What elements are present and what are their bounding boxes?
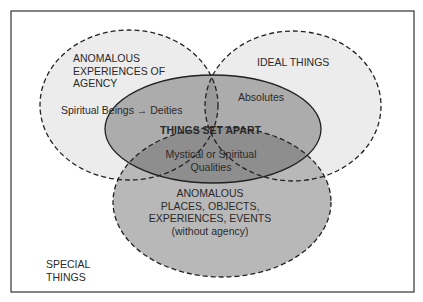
- absolutes-label: Absolutes: [238, 91, 284, 104]
- special-things-label: SPECIAL THINGS: [46, 258, 90, 283]
- places-label-line: ANOMALOUS: [142, 187, 278, 200]
- agency-label-line: AGENCY: [73, 77, 165, 90]
- spiritual-beings-label: Spiritual Beings → Deities: [61, 104, 182, 117]
- set-apart-label: THINGS SET APART: [160, 124, 261, 137]
- special-things-line: THINGS: [46, 271, 90, 284]
- agency-label-line: EXPERIENCES OF: [73, 65, 165, 78]
- places-label-line: (without agency): [142, 225, 278, 238]
- agency-set-label: ANOMALOUS EXPERIENCES OF AGENCY: [73, 52, 165, 90]
- mystical-label-line: Mystical or Spiritual: [158, 148, 264, 161]
- mystical-label: Mystical or Spiritual Qualities: [158, 148, 264, 173]
- ideal-set-label: IDEAL THINGS: [257, 56, 329, 69]
- agency-label-line: ANOMALOUS: [73, 52, 165, 65]
- special-things-line: SPECIAL: [46, 258, 90, 271]
- places-label-line: EXPERIENCES, EVENTS: [142, 212, 278, 225]
- mystical-label-line: Qualities: [158, 161, 264, 174]
- places-label-line: PLACES, OBJECTS,: [142, 200, 278, 213]
- places-set-label: ANOMALOUS PLACES, OBJECTS, EXPERIENCES, …: [142, 187, 278, 237]
